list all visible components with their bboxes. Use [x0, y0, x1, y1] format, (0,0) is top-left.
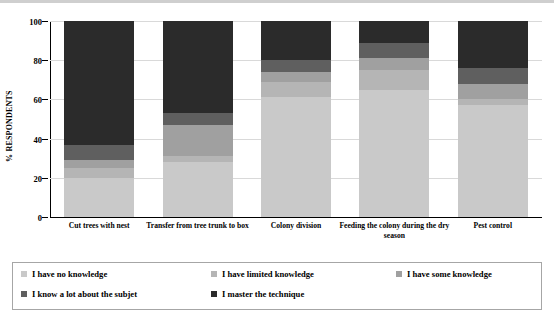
x-axis-category-label: Colony division	[240, 221, 352, 231]
bar-segment	[261, 60, 331, 72]
bar-1	[64, 21, 134, 217]
bar-segment	[261, 72, 331, 82]
bar-segment	[458, 105, 528, 217]
chart-legend: I have no knowledge I have limited knowl…	[12, 262, 542, 310]
bar-segment	[64, 168, 134, 178]
y-axis-tick	[42, 139, 48, 140]
bar-2	[163, 21, 233, 217]
legend-swatch-icon	[211, 291, 217, 297]
y-axis-tick	[42, 217, 48, 218]
bar-segment	[163, 162, 233, 217]
plot-area	[50, 21, 542, 217]
bar-segment	[64, 160, 134, 168]
bar-segment	[163, 113, 233, 125]
bar-segment	[64, 21, 134, 144]
bar-4	[359, 21, 429, 217]
legend-swatch-icon	[211, 271, 217, 277]
y-axis-tick	[42, 21, 48, 22]
stacked-bar-chart: % RESPONDENTS 100806040200Cut trees with…	[0, 6, 554, 256]
x-axis-category-label: Pest control	[437, 221, 549, 231]
legend-item-3: I know a lot about the subjet	[21, 289, 211, 299]
y-axis-tick	[42, 178, 48, 179]
legend-row-1: I have no knowledge I have limited knowl…	[21, 269, 533, 289]
bar-segment	[261, 82, 331, 98]
bar-segment	[458, 21, 528, 68]
y-axis-tick-label: 0	[12, 213, 42, 223]
bar-segment	[359, 21, 429, 43]
bar-3	[261, 21, 331, 217]
legend-label: I have some knowledge	[407, 269, 492, 279]
bar-segment	[359, 70, 429, 90]
bar-segment	[359, 43, 429, 59]
bar-segment	[163, 125, 233, 156]
legend-item-1: I have limited knowledge	[211, 269, 396, 279]
bar-segment	[64, 178, 134, 217]
y-axis-tick-label: 80	[12, 56, 42, 66]
top-divider	[0, 0, 554, 3]
bar-segment	[458, 84, 528, 100]
bar-segment	[458, 68, 528, 84]
legend-row-2: I know a lot about the subjet I master t…	[21, 289, 533, 309]
bar-segment	[359, 90, 429, 217]
legend-label: I have limited knowledge	[222, 269, 314, 279]
x-axis-category-label: Transfer from tree trunk to box	[142, 221, 254, 231]
y-axis-tick-label: 100	[12, 17, 42, 27]
y-axis-tick-label: 20	[12, 174, 42, 184]
legend-swatch-icon	[396, 271, 402, 277]
bar-segment	[64, 145, 134, 161]
legend-label: I know a lot about the subjet	[32, 289, 137, 299]
y-axis-label: % RESPONDENTS	[2, 66, 16, 186]
y-axis-tick-label: 60	[12, 95, 42, 105]
y-axis-tick	[42, 99, 48, 100]
bar-5	[458, 21, 528, 217]
bar-segment	[261, 97, 331, 217]
legend-item-4: I master the technique	[211, 289, 396, 299]
bar-segment	[359, 58, 429, 70]
legend-label: I have no knowledge	[32, 269, 107, 279]
legend-label: I master the technique	[222, 289, 304, 299]
x-axis-category-label: Feeding the colony during the dry season	[338, 221, 450, 240]
x-axis-category-label: Cut trees with nest	[43, 221, 155, 231]
bar-segment	[163, 21, 233, 113]
bar-segment	[261, 21, 331, 60]
legend-item-0: I have no knowledge	[21, 269, 211, 279]
y-axis-tick-label: 40	[12, 135, 42, 145]
y-axis-tick	[42, 60, 48, 61]
legend-swatch-icon	[21, 271, 27, 277]
legend-swatch-icon	[21, 291, 27, 297]
x-axis-line	[50, 217, 542, 218]
legend-item-2: I have some knowledge	[396, 269, 492, 279]
